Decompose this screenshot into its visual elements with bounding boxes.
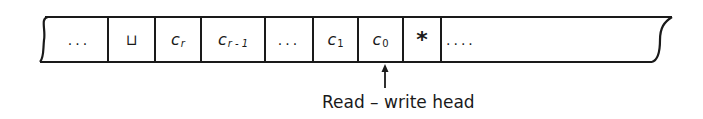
- cell-subscript: r - 1: [228, 38, 248, 49]
- cell-subscript: 1: [337, 38, 343, 49]
- read-write-head-arrow-icon: [382, 64, 389, 88]
- tape-cell-c-r: cr: [155, 17, 201, 62]
- tape-cell-ellipsis-middle: ...: [265, 17, 313, 62]
- tape-cell-c-0: c0: [358, 17, 403, 62]
- cell-content: ...: [68, 32, 90, 48]
- cell-subscript: r: [181, 38, 185, 49]
- star-marker-icon: *: [416, 27, 428, 52]
- blank-symbol-icon: ⊔: [126, 31, 138, 49]
- cell-symbol: c: [218, 30, 227, 49]
- tape-cell-c-r-minus-1: cr - 1: [201, 17, 265, 62]
- cell-subscript: 0: [382, 38, 388, 49]
- tape-left-torn-edge: [40, 17, 48, 62]
- tape-cell-star-marker: *: [403, 17, 441, 62]
- tape-cell-c-1: c1: [313, 17, 358, 62]
- cell-content: ....: [446, 32, 476, 48]
- cell-symbol: c: [372, 30, 381, 49]
- cell-content: ...: [278, 32, 300, 48]
- cell-symbol: c: [327, 30, 336, 49]
- cell-symbol: c: [171, 30, 180, 49]
- tape-cell-blank: ⊔: [108, 17, 155, 62]
- read-write-head-label: Read – write head: [322, 92, 475, 112]
- tape-right-torn-edge: [652, 17, 672, 62]
- tape-cell-ellipsis-left: ...: [50, 17, 108, 62]
- tape-cell-ellipsis-right: ....: [446, 17, 506, 62]
